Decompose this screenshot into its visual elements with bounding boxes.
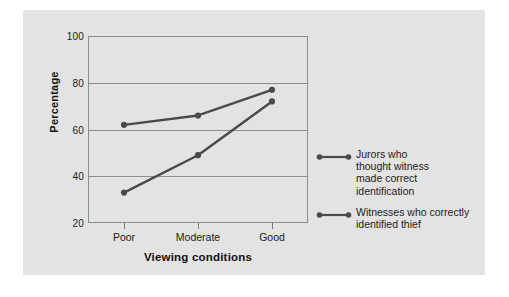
legend-label-jurors-line-4: identification [356,185,491,197]
series-line-jurors [124,90,272,125]
chart-figure: 100 80 60 40 20 Percentage Poor Moderate… [0,0,509,297]
legend-label-jurors-line-3: made correct [356,172,491,184]
legend-label-jurors-line-1: Jurors who [356,148,491,160]
legend-label-jurors-line-2: thought witness [356,160,491,172]
x-axis-title: Viewing conditions [88,251,308,263]
y-tick-label-100: 100 [54,31,84,42]
legend-line-marker-icon [316,153,352,161]
legend-label-jurors: Jurors who thought witness made correct … [356,148,491,197]
legend-line-marker-icon [316,211,352,219]
x-tick-label-good: Good [227,231,317,243]
x-tick-mark-moderate [198,223,199,229]
legend-label-witnesses-line-2: identified thief [356,218,491,230]
legend-entry-witnesses: Witnesses who correctly identified thief [316,206,491,230]
data-point [121,190,127,196]
y-tick-label-20: 20 [54,218,84,229]
data-point [195,112,201,118]
data-point [269,87,275,93]
y-tick-label-40: 40 [54,171,84,182]
x-tick-mark-good [272,223,273,229]
data-point [121,122,127,128]
legend-entry-jurors: Jurors who thought witness made correct … [316,148,491,197]
legend-label-witnesses: Witnesses who correctly identified thief [356,206,491,230]
y-axis-title: Percentage [48,42,60,162]
data-point [269,98,275,104]
series-plot [88,36,308,223]
chart-legend: Jurors who thought witness made correct … [316,148,491,239]
x-tick-mark-poor [124,223,125,229]
legend-label-witnesses-line-1: Witnesses who correctly [356,206,491,218]
data-point [195,152,201,158]
